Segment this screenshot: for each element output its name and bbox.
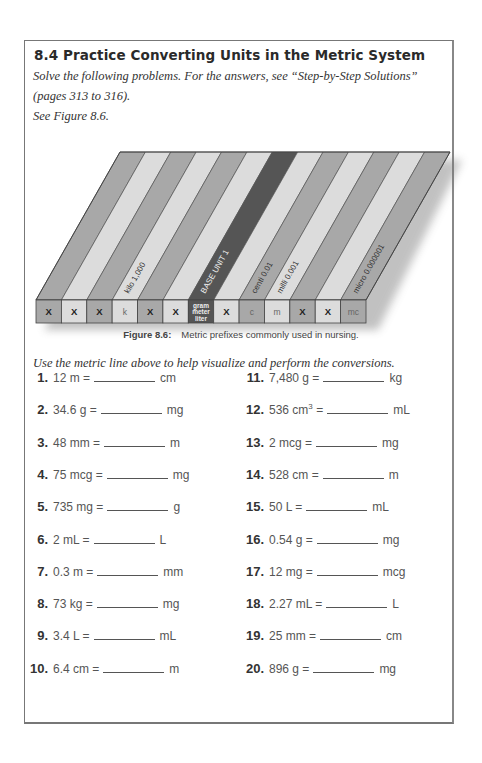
problem-item: 6.2 mL =L [30, 532, 166, 547]
instructions: Use the metric line above to help visual… [33, 356, 395, 371]
problem-unit: g [173, 500, 180, 514]
answer-blank[interactable] [103, 671, 164, 673]
problem-given: 2.27 mL = [269, 597, 322, 611]
prefix-box-label: liter [195, 315, 207, 322]
prefix-box-label: X [172, 306, 179, 317]
problem-unit: m [389, 468, 399, 482]
problem-number: 3. [30, 435, 48, 450]
answer-blank[interactable] [326, 606, 387, 608]
answer-blank[interactable] [107, 477, 168, 479]
answer-blank[interactable] [323, 380, 384, 382]
prefix-box-label: c [250, 307, 255, 317]
problem-unit: kg [389, 371, 402, 385]
problem-unit: cm [160, 371, 176, 385]
problem-item: 20.896 g =mg [246, 661, 396, 676]
prefix-box-label: X [223, 306, 230, 317]
problem-number: 14. [246, 467, 264, 482]
problem-unit: cm [386, 629, 402, 643]
figure-label: Figure 8.6: [123, 329, 171, 340]
prefix-box-label: X [96, 306, 103, 317]
answer-blank[interactable] [94, 542, 155, 544]
problem-number: 19. [246, 628, 264, 643]
problem-item: 14.528 cm =m [246, 467, 399, 482]
problem-item: 10.6.4 cm =m [30, 661, 179, 676]
prefix-boxes: XXXkXXgrammeterliterXcmXXmc [36, 300, 366, 323]
problem-unit: mL [372, 500, 389, 514]
problem-number: 9. [30, 628, 48, 643]
problem-item: 16.0.54 g =mg [246, 532, 399, 547]
problem-number: 15. [246, 499, 264, 514]
problem-number: 18. [246, 596, 264, 611]
answer-blank[interactable] [316, 445, 377, 447]
problem-unit: mg [163, 597, 180, 611]
problem-given: 48 mm = [53, 436, 100, 450]
problem-given: 2 mcg = [269, 436, 312, 450]
answer-blank[interactable] [323, 477, 384, 479]
prefix-box-label: X [71, 306, 78, 317]
problem-given: 34.6 g = [53, 403, 97, 417]
problem-item: 3.48 mm =m [30, 435, 180, 450]
problem-unit: m [169, 662, 179, 676]
answer-blank[interactable] [97, 606, 158, 608]
prefix-box-label: X [299, 306, 306, 317]
metric-prefix-diagram: kilo 1,000BASE UNIT 1centi 0.01milli 0.0… [0, 0, 482, 340]
problem-number: 8. [30, 596, 48, 611]
problem-given: 896 g = [269, 662, 309, 676]
answer-blank[interactable] [94, 380, 155, 382]
problem-item: 5.735 mg =g [30, 499, 180, 514]
problem-item: 7.0.3 m =mm [30, 564, 183, 579]
problem-unit: mg [379, 662, 396, 676]
prefix-box-label: X [325, 306, 332, 317]
answer-blank[interactable] [104, 445, 165, 447]
answer-blank[interactable] [94, 638, 155, 640]
problem-unit: mL [160, 629, 177, 643]
problem-item: 15.50 L =mL [246, 499, 389, 514]
problem-given: 73 kg = [53, 597, 93, 611]
answer-blank[interactable] [317, 574, 378, 576]
problem-unit: mcg [383, 565, 406, 579]
problem-number: 2. [30, 402, 48, 417]
problem-number: 10. [30, 661, 48, 676]
problem-given: 0.3 m = [53, 565, 93, 579]
problem-number: 17. [246, 564, 264, 579]
problem-given: 12 m = [53, 371, 90, 385]
answer-blank[interactable] [317, 542, 378, 544]
problem-given: 536 cm3 = [269, 403, 323, 417]
problem-given: 50 L = [269, 500, 302, 514]
problem-given: 735 mg = [53, 500, 103, 514]
figure-caption-text: Metric prefixes commonly used in nursing… [181, 329, 358, 340]
answer-blank[interactable] [97, 574, 158, 576]
problem-number: 6. [30, 532, 48, 547]
problem-number: 7. [30, 564, 48, 579]
prefix-box-label: m [274, 307, 281, 317]
problem-given: 7,480 g = [269, 371, 319, 385]
problem-item: 8.73 kg =mg [30, 596, 179, 611]
answer-blank[interactable] [101, 412, 162, 414]
problem-number: 4. [30, 467, 48, 482]
problem-unit: L [160, 533, 167, 547]
problem-given: 528 cm = [269, 468, 319, 482]
problem-given: 0.54 g = [269, 533, 313, 547]
problem-item: 13.2 mcg =mg [246, 435, 399, 450]
problem-given: 12 mg = [269, 565, 313, 579]
answer-blank[interactable] [320, 638, 381, 640]
problem-item: 17.12 mg =mcg [246, 564, 405, 579]
problem-unit: mL [393, 403, 410, 417]
prefix-box-label: mc [348, 307, 360, 317]
problem-unit: mg [382, 436, 399, 450]
problem-number: 5. [30, 499, 48, 514]
answer-blank[interactable] [107, 509, 168, 511]
problem-number: 13. [246, 435, 264, 450]
problem-number: 16. [246, 532, 264, 547]
answer-blank[interactable] [313, 671, 374, 673]
answer-blank[interactable] [327, 412, 388, 414]
prefix-box-label: k [123, 307, 128, 317]
prefix-box-label: X [147, 306, 154, 317]
answer-blank[interactable] [306, 509, 367, 511]
problem-item: 18.2.27 mL =L [246, 596, 399, 611]
problem-unit: mg [167, 403, 184, 417]
problem-given: 6.4 cm = [53, 662, 99, 676]
prefix-box-label: X [46, 306, 53, 317]
problem-item: 12.536 cm3 =mL [246, 402, 410, 417]
problem-item: 1.12 m =cm [30, 370, 176, 385]
